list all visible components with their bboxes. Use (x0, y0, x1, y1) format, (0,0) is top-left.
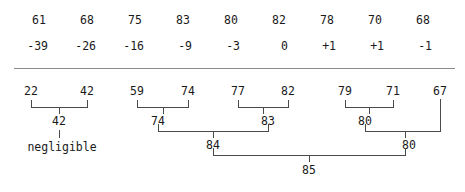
annotation-stem (59, 130, 60, 138)
leaf-1: 42 (80, 86, 94, 98)
leaf-4: 77 (231, 86, 245, 98)
top-delta-4: -3 (226, 41, 240, 53)
leaf-7: 71 (386, 86, 400, 98)
top-value-4: 80 (224, 15, 238, 27)
top-delta-7: +1 (370, 41, 384, 53)
annotation-label: negligible (27, 142, 96, 154)
top-value-7: 70 (368, 15, 382, 27)
bracket-l1-b-stem (163, 107, 164, 114)
leaf-3: 74 (181, 86, 195, 98)
leaf-5: 82 (281, 86, 295, 98)
top-delta-5: 0 (281, 41, 288, 53)
top-value-1: 68 (80, 15, 94, 27)
leaf-0: 22 (24, 86, 38, 98)
bracket-l1-b-right-tick (188, 100, 189, 108)
bracket-l2-b-stem (405, 131, 406, 138)
bracket-l3-stem (309, 155, 310, 162)
top-value-0: 61 (32, 15, 46, 27)
top-delta-1: -26 (75, 41, 96, 53)
top-value-6: 78 (320, 15, 334, 27)
top-delta-6: +1 (322, 41, 336, 53)
top-value-2: 75 (128, 15, 142, 27)
leaf-6: 79 (338, 86, 352, 98)
node-l3-label: 85 (302, 165, 316, 177)
top-delta-8: -1 (418, 41, 432, 53)
node-l1-a-label: 42 (52, 116, 66, 128)
top-delta-3: -9 (178, 41, 192, 53)
leaf-2: 59 (130, 86, 144, 98)
bracket-l1-a-right-tick (87, 100, 88, 108)
top-delta-2: -16 (123, 41, 144, 53)
bracket-l2-a-stem (213, 131, 214, 138)
top-value-3: 83 (176, 15, 190, 27)
bracket-l1-c-right-tick (288, 100, 289, 108)
bracket-l1-d-stem (369, 107, 370, 114)
horizontal-divider (14, 68, 455, 69)
top-value-8: 68 (416, 15, 430, 27)
bracket-l1-a-stem (59, 107, 60, 114)
diagram-canvas: 61 68 75 83 80 82 78 70 68 -39 -26 -16 -… (0, 0, 465, 192)
bracket-l1-c-stem (263, 107, 264, 114)
leaf-67-dropline (440, 99, 441, 132)
bracket-l2-b-span (365, 131, 441, 132)
top-value-5: 82 (272, 15, 286, 27)
bracket-l3-right-tick (405, 148, 406, 156)
top-delta-0: -39 (27, 41, 48, 53)
bracket-l2-a-right-tick (268, 124, 269, 132)
bracket-l1-d-right-tick (393, 100, 394, 108)
leaf-8: 67 (433, 86, 447, 98)
